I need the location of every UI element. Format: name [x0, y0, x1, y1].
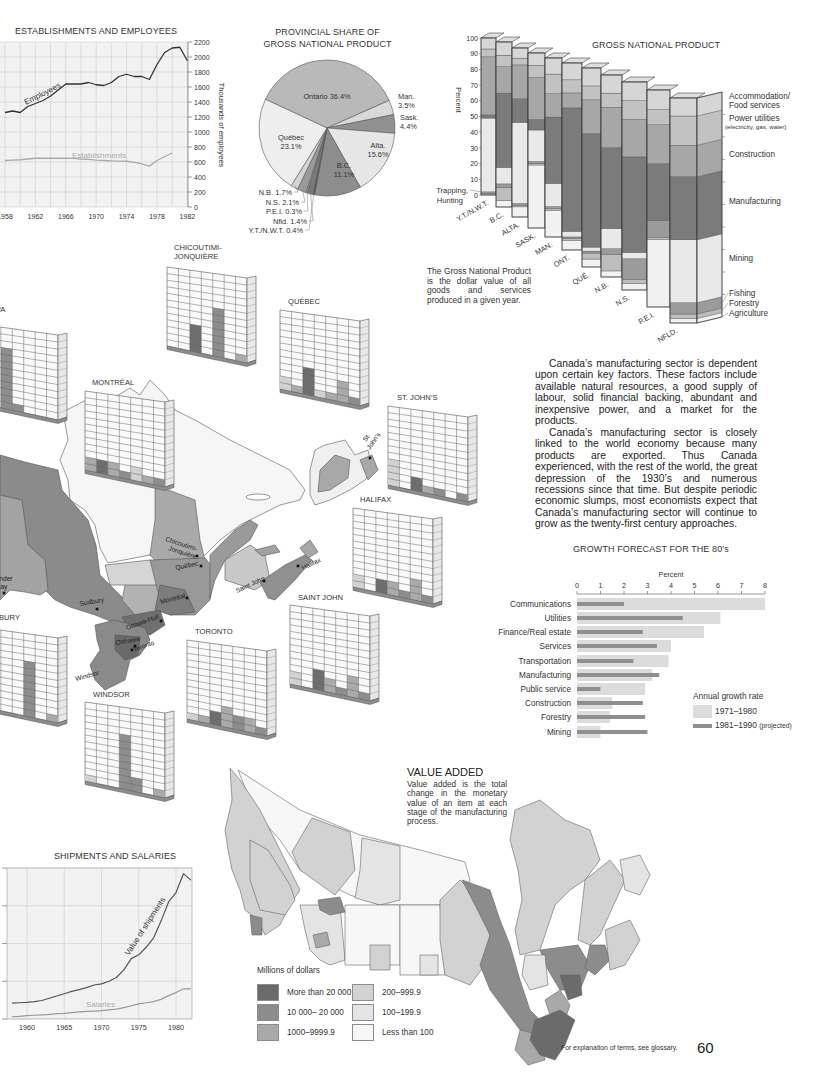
legend-item-100-199: 100–199.9: [352, 1004, 421, 1021]
map-region: [355, 838, 400, 905]
gnp-segment: [528, 165, 545, 228]
x-tick-label: 5: [693, 581, 697, 590]
gnp-segment: [512, 99, 528, 123]
box-side-face: [267, 649, 276, 736]
y-tick-label: 0: [474, 192, 478, 199]
gnp-segment: [670, 319, 697, 324]
sector-leader-line: [722, 313, 728, 317]
gnp-segment: [670, 116, 697, 145]
city-label-line1: CHICOUTIMI-: [174, 243, 222, 252]
page-number: 60: [697, 1039, 714, 1056]
gnp-segment: [601, 271, 622, 277]
gnp-segment: [512, 205, 528, 207]
gnp-segment: [512, 65, 528, 99]
x-axis-label: Percent: [659, 570, 684, 579]
column-top-face: [528, 48, 553, 53]
city-label-toronto: TORONTO: [195, 627, 233, 636]
sector-label: Manufacturing: [729, 197, 781, 206]
gnp-segment: [562, 239, 582, 241]
city-bar: [410, 578, 421, 601]
gnp-segment: [582, 251, 601, 253]
map-region: [605, 920, 640, 970]
gnp-segment: [496, 184, 512, 187]
gnp-chart-title: GROSS NATIONAL PRODUCT: [592, 40, 720, 50]
category-label: Finance/Real estate: [498, 628, 571, 637]
y-tick-label: 70: [470, 82, 478, 89]
legend-label: Less than 100: [382, 1028, 433, 1037]
growth-legend-1981-text: 1981–1990: [715, 720, 757, 730]
gnp-segment: [582, 68, 601, 86]
bar-1981-1990: [577, 616, 683, 620]
gnp-side-segment: [697, 234, 722, 303]
x-tick-label: 1958: [0, 213, 13, 220]
gnp-segment: [545, 208, 562, 210]
legend-label: 100–199.9: [382, 1008, 421, 1017]
province-label: ONT.: [552, 253, 571, 269]
map-city-label: Bay: [0, 583, 8, 591]
salaries-series-label: Salaries: [86, 1000, 115, 1009]
bar-1981-1990: [577, 644, 657, 648]
y-tick-label: 50: [470, 113, 478, 120]
establishments-chart-title: ESTABLISHMENTS AND EMPLOYEES: [0, 26, 192, 36]
gnp-segment: [670, 303, 697, 314]
y-tick-label: 90: [470, 50, 478, 57]
establishments-series-label: Establishments: [72, 151, 126, 160]
category-label: Utilities: [545, 614, 571, 623]
bar-1981-1990: [577, 602, 624, 606]
city-bar: [213, 308, 224, 359]
pie-slice-value: 3.5%: [398, 101, 415, 110]
category-label: Public service: [520, 685, 571, 694]
y-tick-label: 2200: [194, 39, 210, 46]
legend-swatch: [352, 1024, 374, 1041]
gnp-segment: [545, 207, 562, 209]
gnp-segment: [622, 157, 647, 253]
x-tick-label: 1962: [28, 213, 44, 220]
y-tick-label: 10: [470, 176, 478, 183]
box-side-face: [247, 276, 256, 363]
legend-label: 1000–9999.9: [287, 1028, 335, 1037]
category-label: Forestry: [541, 713, 572, 722]
pie-slice-label: Nfld. 1.4%: [273, 217, 308, 226]
x-tick-label: 1: [599, 581, 603, 590]
growth-legend-label-1971: 1971–1980: [715, 706, 757, 716]
growth-chart-title: GROWTH FORECAST FOR THE 80’s: [573, 544, 729, 554]
city-dot-icon: [369, 457, 372, 460]
legend-swatch: [352, 1004, 374, 1021]
gnp-side-segment: [697, 139, 722, 177]
legend-swatch: [257, 1004, 279, 1021]
gnp-segment: [562, 63, 582, 80]
city-dot-icon: [131, 649, 134, 652]
map-region: [300, 540, 318, 558]
gnp-segment: [601, 93, 622, 107]
y-tick-label: 20: [470, 160, 478, 167]
gnp-segment: [622, 101, 647, 120]
x-tick-label: 2: [622, 581, 626, 590]
gnp-segment: [562, 231, 582, 237]
gnp-segment: [562, 80, 582, 93]
y-tick-label: 0: [194, 204, 198, 211]
gnp-segment: [582, 134, 601, 247]
gnp-segment: [528, 120, 545, 131]
legend-label: 10 000– 20 000: [287, 1008, 344, 1017]
growth-legend-projected-note: (projected): [759, 722, 792, 729]
map-region: [620, 855, 650, 895]
x-tick-label: 1970: [94, 1023, 110, 1032]
province-label: NFLD.: [656, 326, 679, 344]
category-label: Services: [540, 642, 571, 651]
gnp-segment: [562, 241, 582, 250]
map-city-label: Thunder: [0, 575, 13, 582]
x-tick-label: 6: [716, 581, 720, 590]
bar-1981-1990: [577, 715, 645, 719]
pie-slice-value: 23.1%: [281, 142, 302, 151]
gnp-segment: [496, 187, 512, 200]
gnp-segment: [545, 74, 562, 94]
category-label: Mining: [547, 728, 572, 737]
gnp-segment: [647, 110, 670, 125]
pie-slice-label: P.E.I. 0.3%: [266, 207, 302, 216]
growth-legend-label-1981: 1981–1990 (projected): [715, 720, 792, 730]
gnp-segment: [601, 148, 622, 229]
city-label-saint-john: SAINT JOHN: [298, 593, 343, 602]
gnp-segment: [601, 75, 622, 93]
gnp-segment: [512, 58, 528, 65]
gnp-segment: [496, 167, 512, 184]
